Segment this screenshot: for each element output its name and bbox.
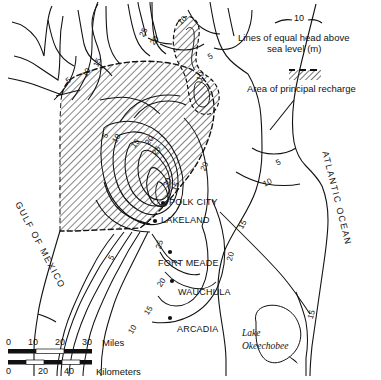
scale-miles-tick-20: 20 xyxy=(55,337,65,347)
scale-miles-tick-30: 30 xyxy=(82,337,92,347)
city-dot-wauchula xyxy=(170,279,174,283)
map-canvas: 10 Lines of equal head above sea level (… xyxy=(0,0,381,380)
city-dot-fort-meade xyxy=(168,250,172,254)
scale-km-tick-0: 0 xyxy=(6,366,11,376)
city-dot-arcadia xyxy=(168,316,172,320)
scale-bar-kilometers xyxy=(8,360,92,365)
map-graphics xyxy=(0,0,381,380)
label-lake-line2: Okeechobee xyxy=(242,341,288,351)
scale-unit-miles: Miles xyxy=(102,337,124,348)
city-label-lakeland: LAKELAND xyxy=(161,215,210,225)
scale-miles-tick-0: 0 xyxy=(6,337,11,347)
lake-okeechobee-outline xyxy=(255,305,300,364)
scale-km-tick-40: 40 xyxy=(64,366,74,376)
legend-recharge-swatch xyxy=(289,70,321,80)
legend-recharge-caption: Area of principal recharge xyxy=(247,83,356,94)
legend-contour-caption-line1: Lines of equal head above xyxy=(238,32,349,43)
legend-contour-value: 10 xyxy=(294,13,304,23)
scale-miles-tick-10: 10 xyxy=(28,337,38,347)
city-label-wauchula: WAUCHULA xyxy=(178,287,231,297)
scale-bar-miles xyxy=(8,349,92,354)
legend-contour-line-right xyxy=(308,20,322,23)
legend-contour-line-left xyxy=(275,20,292,23)
legend-contour-caption-line2: sea level (m) xyxy=(267,43,321,54)
label-lake-line1: Lake xyxy=(242,328,260,338)
scale-unit-kilometers: Kilometers xyxy=(96,366,141,377)
city-label-arcadia: ARCADIA xyxy=(177,324,218,334)
city-dot-polk-city xyxy=(161,201,165,205)
city-label-fort-meade: FORT MEADE xyxy=(158,258,219,268)
city-dot-lakeland xyxy=(153,219,157,223)
city-label-polk-city: POLK CITY xyxy=(169,197,218,207)
scale-bars xyxy=(8,349,92,365)
scale-km-tick-20: 20 xyxy=(38,366,48,376)
